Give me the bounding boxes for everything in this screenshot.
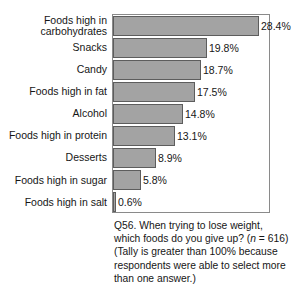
bar-row: 14.8% — [113, 103, 269, 125]
caption-line-3: (Tally is greater than 100% because — [114, 245, 304, 258]
bar-value-label: 13.1% — [175, 131, 207, 142]
category-label-candy: Candy — [0, 64, 107, 75]
caption-line-4: respondents were able to select more — [114, 259, 304, 272]
chart-caption: Q56. When trying to lose weight, which f… — [114, 219, 304, 285]
caption-line-2-text-b: = 616) — [256, 233, 288, 244]
bar-value-label: 28.4% — [259, 21, 291, 32]
plot-area: 28.4% 19.8% 18.7% 17.5% 14.8% 13.1% 8.9% — [112, 14, 270, 213]
bar-value-label: 18.7% — [201, 65, 233, 76]
bar-row: 13.1% — [113, 125, 269, 147]
caption-line-1: Q56. When trying to lose weight, — [114, 219, 304, 232]
bar-row: 18.7% — [113, 59, 269, 81]
category-label-foods-high-in-sugar: Foods high in sugar — [0, 175, 107, 186]
bar-snacks — [113, 38, 207, 59]
category-label-foods-high-in-carbohydrates: Foods high in carbohydrates — [0, 15, 107, 38]
bar-row: 17.5% — [113, 81, 269, 103]
bar-desserts — [113, 148, 156, 169]
bar-row: 28.4% — [113, 15, 269, 37]
bar-value-label: 19.8% — [207, 43, 239, 54]
bar-value-label: 0.6% — [116, 197, 142, 208]
caption-line-2: which foods do you give up? (n = 616) — [114, 232, 304, 245]
bar-row: 5.8% — [113, 169, 269, 191]
bar-chart-figure: Foods high in carbohydrates Snacks Candy… — [0, 0, 305, 293]
category-label-foods-high-in-protein: Foods high in protein — [0, 130, 107, 141]
caption-line-2-text-a: which foods do you give up? ( — [114, 233, 250, 244]
bar-foods-high-in-carbohydrates — [113, 16, 259, 37]
bar-foods-high-in-fat — [113, 82, 195, 103]
bar-foods-high-in-protein — [113, 126, 175, 147]
category-label-desserts: Desserts — [0, 152, 107, 163]
bar-row: 19.8% — [113, 37, 269, 59]
bar-value-label: 8.9% — [156, 153, 182, 164]
category-label-alcohol: Alcohol — [0, 108, 107, 119]
bar-candy — [113, 60, 201, 81]
bar-row: 8.9% — [113, 147, 269, 169]
bar-value-label: 17.5% — [195, 87, 227, 98]
category-label-snacks: Snacks — [0, 42, 107, 53]
category-label-foods-high-in-fat: Foods high in fat — [0, 86, 107, 97]
category-label-foods-high-in-salt: Foods high in salt — [0, 197, 107, 208]
bar-alcohol — [113, 104, 183, 125]
caption-line-5: than one answer.) — [114, 272, 304, 285]
bar-value-label: 5.8% — [141, 175, 167, 186]
bar-foods-high-in-sugar — [113, 170, 141, 191]
bar-row: 0.6% — [113, 191, 269, 213]
bar-value-label: 14.8% — [183, 109, 215, 120]
